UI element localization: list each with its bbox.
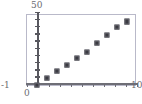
plot-frame [26,14,136,86]
x-axis-tick [126,83,127,88]
x-axis-tick [115,83,116,88]
data-point [64,62,69,67]
y-axis-tick [35,40,40,41]
x-axis-tick [27,83,28,88]
y-axis-tick [35,76,40,77]
data-point [104,33,109,38]
x-axis-tick [49,83,50,88]
data-point [94,41,99,46]
plot-area [27,15,135,85]
x-axis-min-label: -1 [1,80,10,90]
data-point [54,69,59,74]
data-point [74,56,79,61]
y-axis-tick [35,55,40,56]
x-axis-tick [82,83,83,88]
x-axis-tick [93,83,94,88]
x-axis-tick [104,83,105,88]
y-axis-tick [35,62,40,63]
data-point [84,49,89,54]
data-point [114,25,119,30]
y-axis-tick [35,48,40,49]
x-axis-tick [60,83,61,88]
data-point [44,75,49,80]
scatter-plot-figure: 50 -1 0 10 [0,0,142,104]
x-axis-origin-label: 0 [24,88,30,98]
x-axis-tick [71,83,72,88]
data-point [124,19,129,24]
y-axis-tick [35,26,40,27]
y-axis-max-label: 50 [31,0,42,10]
data-point [34,82,39,87]
y-axis-tick [35,33,40,34]
y-axis-tick [35,69,40,70]
x-axis-max-label: 10 [131,80,142,90]
y-axis-tick [35,12,40,13]
y-axis-tick [35,19,40,20]
